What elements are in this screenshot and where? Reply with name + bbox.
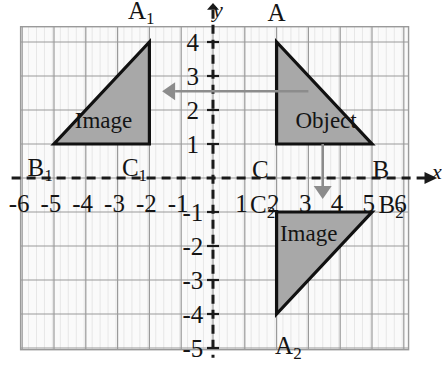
- y-tick-label-4: 4: [187, 30, 200, 55]
- y-tick-label--5: -5: [183, 336, 204, 361]
- vertex-label-C1: C1: [122, 155, 147, 184]
- vertex-label-A2: A2: [275, 333, 302, 362]
- shape-label-object: Object: [295, 109, 356, 132]
- x-tick-label-1: 1: [235, 191, 248, 216]
- x-tick-label-5: 5: [363, 191, 376, 216]
- y-tick-label--4: -4: [183, 302, 204, 327]
- vertex-label-A1: A1: [128, 0, 155, 26]
- x-tick-label-4: 4: [331, 191, 344, 216]
- y-axis-name: y: [213, 0, 223, 21]
- vertex-label-A: A: [268, 0, 286, 25]
- y-tick-label--1: -1: [183, 200, 204, 225]
- x-tick-label--3: -3: [104, 191, 125, 216]
- y-tick-label-1: 1: [187, 132, 200, 157]
- shape-label-image-1: Image: [75, 109, 132, 132]
- vertex-label-C2: C2: [250, 192, 275, 221]
- y-tick-label-2: 2: [187, 98, 200, 123]
- x-tick-label--4: -4: [72, 191, 93, 216]
- vertex-label-B: B: [373, 157, 390, 182]
- x-tick-label--6: -6: [9, 191, 30, 216]
- coordinate-plane-figure: -6-5-4-3-2-11234564321-1-2-3-4-5yxAA1A2B…: [0, 0, 442, 385]
- x-tick-label--2: -2: [136, 191, 157, 216]
- vertex-label-B2: B2: [379, 192, 404, 221]
- y-tick-label--3: -3: [183, 268, 204, 293]
- y-tick-label--2: -2: [183, 234, 204, 259]
- shape-label-image-2: Image: [280, 222, 337, 245]
- y-tick-label-3: 3: [187, 64, 200, 89]
- vertex-label-B1: B1: [28, 155, 53, 184]
- figure-svg: [0, 0, 442, 385]
- x-tick-label-3: 3: [299, 191, 312, 216]
- vertex-label-C: C: [252, 157, 269, 182]
- x-axis-name: x: [432, 161, 442, 183]
- x-tick-label--5: -5: [41, 191, 62, 216]
